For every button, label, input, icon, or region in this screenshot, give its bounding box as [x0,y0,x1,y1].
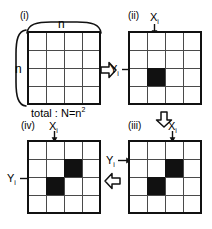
panel-iii-y-label: Yi [106,155,115,168]
panel-iii-tag: (iii) [128,120,141,131]
panel-iv-grid [27,140,101,214]
panel-iv-y-label: Yi [7,173,16,186]
filled-cell [147,68,165,86]
panel-i-top-n-label: n [58,17,65,31]
y-sub: i [113,161,115,168]
panel-iv-tag: (iv) [21,120,35,131]
figure-root: (i) n n total : N=n2 [0,0,212,229]
gridline-h [29,195,99,196]
gridline-h [130,86,200,87]
gridline-h [130,68,200,69]
panel-i-grid [27,31,101,105]
y-sub: i [117,70,119,77]
filled-cell [64,159,82,177]
panel-ii-tag: (ii) [128,10,139,21]
panel-iii-grid [128,140,202,214]
gridline-h [130,177,200,178]
gridline-h [29,68,99,69]
arrow-iii-to-iv-icon [104,172,121,190]
total-text: total : N=n [31,107,81,119]
y-sub: i [14,179,16,186]
panel-ii-y-label: Yi [110,64,119,77]
gridline-h [130,50,200,51]
panel-ii-grid [128,31,202,105]
gridline-h [29,50,99,51]
gridline-h [29,177,99,178]
gridline-h [29,86,99,87]
filled-cell [46,177,64,195]
panel-i-total-label: total : N=n2 [31,106,85,119]
filled-cell [147,177,165,195]
filled-cell [165,159,183,177]
total-exponent: 2 [81,106,85,113]
panel-i-left-n-label: n [15,62,22,76]
gridline-h [130,195,200,196]
